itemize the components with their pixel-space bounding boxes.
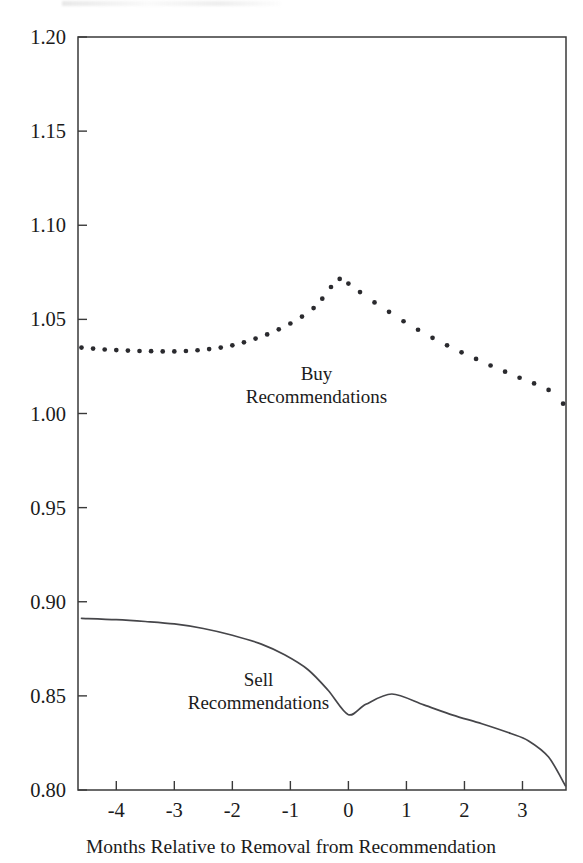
buy-data-point-30 bbox=[430, 335, 435, 340]
series-annotations: BuyRecommendationsSellRecommendations bbox=[188, 363, 387, 713]
y-tick-label-1.15: 1.15 bbox=[30, 120, 66, 142]
annotation-line: Recommendations bbox=[188, 692, 329, 713]
buy-data-point-15 bbox=[253, 336, 258, 341]
buy-data-point-16 bbox=[265, 332, 270, 337]
x-tick-label-0: 0 bbox=[343, 799, 353, 821]
buy-data-point-5 bbox=[137, 349, 142, 354]
y-tick-label-0.80: 0.80 bbox=[30, 779, 66, 801]
y-tick-label-1.20: 1.20 bbox=[30, 26, 66, 48]
buy-data-point-36 bbox=[517, 375, 522, 380]
x-tick-label--3: -3 bbox=[166, 799, 183, 821]
x-axis-ticks bbox=[116, 781, 522, 790]
y-tick-label-0.90: 0.90 bbox=[30, 591, 66, 613]
buy-data-point-28 bbox=[401, 319, 406, 324]
y-tick-label-0.95: 0.95 bbox=[30, 497, 66, 519]
annotation-buy-recommendations: BuyRecommendations bbox=[246, 363, 387, 407]
y-tick-label-1.10: 1.10 bbox=[30, 214, 66, 236]
y-tick-label-0.85: 0.85 bbox=[30, 685, 66, 707]
plot-frame bbox=[78, 37, 566, 790]
buy-data-point-9 bbox=[184, 349, 189, 354]
buy-data-point-32 bbox=[459, 350, 464, 355]
buy-data-point-2 bbox=[102, 347, 107, 352]
buy-data-point-23 bbox=[337, 277, 342, 282]
buy-data-point-11 bbox=[207, 347, 212, 352]
buy-data-point-1 bbox=[91, 346, 96, 351]
buy-data-point-35 bbox=[503, 369, 508, 374]
x-tick-label--2: -2 bbox=[224, 799, 241, 821]
buy-data-point-38 bbox=[546, 388, 551, 393]
buy-data-point-14 bbox=[242, 340, 247, 345]
buy-data-point-22 bbox=[329, 285, 334, 290]
buy-data-point-39 bbox=[561, 401, 566, 406]
buy-data-point-24 bbox=[346, 281, 351, 286]
buy-data-point-19 bbox=[300, 314, 305, 319]
buy-data-point-31 bbox=[445, 343, 450, 348]
x-axis-tick-labels: -4-3-2-10123 bbox=[108, 799, 528, 821]
x-tick-label-2: 2 bbox=[459, 799, 469, 821]
buy-data-point-33 bbox=[474, 357, 479, 362]
buy-data-point-8 bbox=[172, 349, 177, 354]
buy-data-point-20 bbox=[311, 306, 316, 311]
buy-data-point-13 bbox=[230, 343, 235, 348]
buy-data-point-21 bbox=[320, 296, 325, 301]
x-tick-label-1: 1 bbox=[401, 799, 411, 821]
y-tick-label-1.05: 1.05 bbox=[30, 308, 66, 330]
x-axis-title: Months Relative to Removal from Recommen… bbox=[86, 836, 496, 857]
x-tick-label--1: -1 bbox=[282, 799, 299, 821]
y-axis-tick-labels: 0.800.850.900.951.001.051.101.151.20 bbox=[30, 26, 66, 801]
annotation-line: Sell bbox=[244, 669, 274, 690]
buy-data-point-3 bbox=[114, 348, 119, 353]
buy-data-point-6 bbox=[149, 349, 154, 354]
annotation-line: Recommendations bbox=[246, 386, 387, 407]
buy-data-point-18 bbox=[288, 321, 293, 326]
y-axis-ticks bbox=[78, 37, 87, 790]
buy-data-point-26 bbox=[372, 300, 377, 305]
buy-data-point-4 bbox=[126, 348, 131, 353]
buy-data-point-25 bbox=[358, 290, 363, 295]
buy-data-point-29 bbox=[416, 327, 421, 332]
buy-data-point-12 bbox=[218, 345, 223, 350]
annotation-sell-recommendations: SellRecommendations bbox=[188, 669, 329, 713]
x-tick-label-3: 3 bbox=[517, 799, 527, 821]
buy-data-point-7 bbox=[160, 349, 165, 354]
chart-canvas: 0.800.850.900.951.001.051.101.151.20 -4-… bbox=[0, 0, 583, 863]
buy-data-point-27 bbox=[387, 309, 392, 314]
buy-data-point-0 bbox=[79, 345, 84, 350]
y-tick-label-1.00: 1.00 bbox=[30, 403, 66, 425]
buy-data-point-17 bbox=[276, 327, 281, 332]
annotation-line: Buy bbox=[301, 363, 333, 384]
buy-data-point-37 bbox=[532, 381, 537, 386]
x-tick-label--4: -4 bbox=[108, 799, 125, 821]
buy-data-point-10 bbox=[195, 348, 200, 353]
buy-data-point-34 bbox=[488, 363, 493, 368]
figure-container: 0.800.850.900.951.001.051.101.151.20 -4-… bbox=[0, 0, 583, 863]
